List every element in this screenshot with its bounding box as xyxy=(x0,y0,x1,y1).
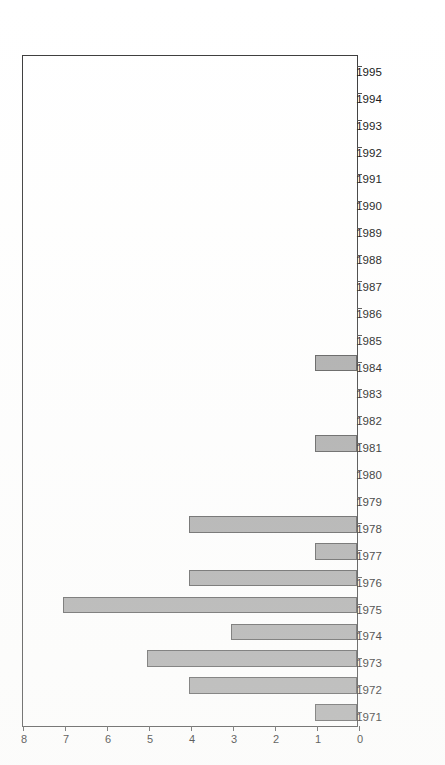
category-axis-tick: 1972 xyxy=(357,685,362,686)
category-axis-tick: 1975 xyxy=(357,604,362,605)
value-axis-tick-label: 8 xyxy=(20,735,26,746)
value-axis-tick-label: 0 xyxy=(356,735,362,746)
value-axis-tick-label: 2 xyxy=(272,735,278,746)
category-axis-tick-label: 1981 xyxy=(356,443,382,455)
category-axis-tick-label: 1991 xyxy=(356,174,382,186)
category-axis-tick-label: 1971 xyxy=(356,712,382,724)
category-axis-tick-label: 1989 xyxy=(356,228,382,240)
category-axis-tick: 1991 xyxy=(357,174,362,175)
bar xyxy=(315,355,357,372)
value-axis-tick: 3 xyxy=(233,726,234,731)
category-axis-tick: 1974 xyxy=(357,631,362,632)
category-axis-tick-label: 1977 xyxy=(356,551,382,563)
figure-canvas: 012345678 197119721973197419751976197719… xyxy=(0,0,445,765)
category-axis-tick: 1989 xyxy=(357,228,362,229)
bar xyxy=(63,597,357,614)
category-axis-tick-label: 1993 xyxy=(356,121,382,133)
category-axis-tick: 1984 xyxy=(357,362,362,363)
category-axis-tick: 1979 xyxy=(357,497,362,498)
category-axis-tick-label: 1974 xyxy=(356,631,382,643)
category-axis-tick: 1990 xyxy=(357,201,362,202)
bar xyxy=(147,650,357,667)
value-axis-tick: 0 xyxy=(359,726,360,731)
category-axis-tick: 1988 xyxy=(357,255,362,256)
category-axis-tick-label: 1972 xyxy=(356,685,382,697)
category-axis-tick-label: 1987 xyxy=(356,282,382,294)
value-axis-tick: 4 xyxy=(191,726,192,731)
value-axis-tick-label: 3 xyxy=(230,735,236,746)
category-axis-tick-label: 1988 xyxy=(356,255,382,267)
value-axis-tick-label: 1 xyxy=(314,735,320,746)
category-axis-tick: 1995 xyxy=(357,66,362,67)
value-axis-tick: 1 xyxy=(317,726,318,731)
value-axis-tick-label: 4 xyxy=(188,735,194,746)
category-axis-tick-label: 1973 xyxy=(356,658,382,670)
bar xyxy=(315,704,357,721)
bar xyxy=(315,543,357,560)
category-axis-tick-label: 1994 xyxy=(356,94,382,106)
category-axis-tick: 1971 xyxy=(357,712,362,713)
category-axis-tick: 1993 xyxy=(357,120,362,121)
category-axis-tick: 1978 xyxy=(357,523,362,524)
value-axis-tick: 2 xyxy=(275,726,276,731)
category-axis-tick-label: 1992 xyxy=(356,148,382,160)
category-axis-tick-label: 1990 xyxy=(356,201,382,213)
category-axis-tick-label: 1980 xyxy=(356,470,382,482)
bar xyxy=(189,516,357,533)
bar xyxy=(315,435,357,452)
category-axis-tick-label: 1975 xyxy=(356,605,382,617)
category-axis-tick-label: 1986 xyxy=(356,309,382,321)
category-axis-tick-label: 1985 xyxy=(356,336,382,348)
category-axis-tick: 1976 xyxy=(357,577,362,578)
category-axis-tick: 1985 xyxy=(357,335,362,336)
category-axis-tick-label: 1976 xyxy=(356,578,382,590)
category-axis-tick: 1983 xyxy=(357,389,362,390)
value-axis-tick-label: 5 xyxy=(146,735,152,746)
category-axis-tick: 1982 xyxy=(357,416,362,417)
bar xyxy=(231,624,357,641)
category-axis-tick: 1994 xyxy=(357,93,362,94)
category-axis-tick: 1973 xyxy=(357,658,362,659)
category-axis-tick-label: 1979 xyxy=(356,497,382,509)
rotated-chart-stage: 012345678 197119721973197419751976197719… xyxy=(0,0,445,765)
plot-area: 012345678 197119721973197419751976197719… xyxy=(22,55,358,727)
category-axis-tick-label: 1982 xyxy=(356,416,382,428)
value-axis-tick: 5 xyxy=(149,726,150,731)
category-axis-tick-label: 1984 xyxy=(356,363,382,375)
category-axis-tick: 1992 xyxy=(357,147,362,148)
value-axis-tick: 7 xyxy=(65,726,66,731)
category-axis-tick: 1987 xyxy=(357,281,362,282)
bar xyxy=(189,677,357,694)
category-axis-tick: 1981 xyxy=(357,443,362,444)
category-axis-tick: 1980 xyxy=(357,470,362,471)
value-axis-tick-label: 7 xyxy=(62,735,68,746)
value-axis-tick-label: 6 xyxy=(104,735,110,746)
value-axis-tick: 8 xyxy=(23,726,24,731)
category-axis-tick: 1986 xyxy=(357,308,362,309)
category-axis-tick-label: 1995 xyxy=(356,67,382,79)
category-axis-tick-label: 1978 xyxy=(356,524,382,536)
category-axis-tick: 1977 xyxy=(357,550,362,551)
bar xyxy=(189,570,357,587)
category-axis-tick-label: 1983 xyxy=(356,390,382,402)
value-axis-tick: 6 xyxy=(107,726,108,731)
